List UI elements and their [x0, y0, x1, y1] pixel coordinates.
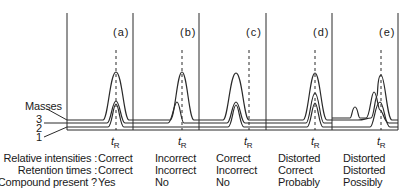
panel-label-e: (e) [379, 26, 395, 38]
value-a-compound-present: Yes [98, 176, 115, 188]
row-label-retention-times: Retention times : [0, 164, 97, 176]
value-a-relative-intensities: Correct [98, 152, 133, 164]
value-c-relative-intensities: Correct [216, 152, 251, 164]
trace-e-mass3 [332, 75, 398, 120]
tr-label-b: tR [178, 135, 186, 152]
trace-d-mass3 [266, 73, 332, 120]
panel-label-a: (a) [113, 26, 129, 38]
trace-d-mass2 [266, 93, 332, 123]
tr-label-d: tR [311, 135, 319, 152]
row-label-compound-present: Compound present ? [0, 176, 97, 188]
panel-label-b: (b) [180, 26, 196, 38]
row-label-relative-intensities: Relative intensities : [0, 152, 97, 164]
panel-label-d: (d) [313, 26, 329, 38]
value-e-relative-intensities: Distorted [343, 152, 385, 164]
value-a-retention-times: Correct [98, 164, 133, 176]
value-c-compound-present: No [216, 176, 230, 188]
tr-label-a: tR [111, 135, 119, 152]
value-d-relative-intensities: Distorted [278, 152, 320, 164]
tr-label-e: tR [377, 135, 385, 152]
value-b-retention-times: Incorrect [155, 164, 196, 176]
value-e-compound-present: Possibly [343, 176, 382, 188]
mass-1-pointer [44, 127, 67, 137]
value-e-retention-times: Distorted [343, 164, 385, 176]
value-c-retention-times: Incorrect [216, 164, 257, 176]
masses-label: Masses [25, 100, 62, 112]
panel-label-c: (c) [246, 26, 262, 38]
value-b-compound-present: No [155, 176, 169, 188]
value-d-retention-times: Correct [278, 164, 313, 176]
value-d-compound-present: Probably [278, 176, 320, 188]
trace-a-mass3 [67, 72, 133, 120]
tr-label-c: tR [244, 135, 252, 152]
trace-b-mass3 [133, 72, 199, 120]
mass-1-label: 1 [36, 131, 42, 143]
value-b-relative-intensities: Incorrect [155, 152, 196, 164]
